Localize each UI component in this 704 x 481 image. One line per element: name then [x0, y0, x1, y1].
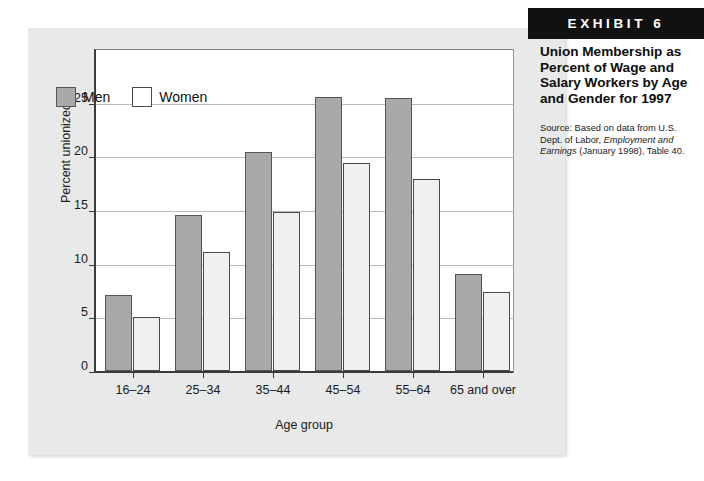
source-suffix: (January 1998), Table 40. — [577, 146, 685, 156]
y-axis-tick — [89, 265, 96, 266]
bar-women — [133, 317, 160, 371]
bar-women — [483, 292, 510, 371]
x-axis-tick-label: 25–34 — [186, 383, 221, 397]
bar-group: 45–54 — [313, 49, 383, 371]
bar-men — [455, 274, 482, 371]
x-axis-title: Age group — [94, 418, 514, 432]
bar-women — [203, 252, 230, 371]
chart-panel: 0510152025 Percent unionized 16–2425–343… — [28, 28, 565, 455]
x-axis-tick-label: 55–64 — [396, 383, 431, 397]
legend-swatch-women — [132, 87, 152, 107]
y-axis-tick — [89, 372, 96, 373]
exhibit-badge: EXHIBIT 6 — [528, 8, 704, 39]
y-axis-tick-label: 0 — [81, 359, 88, 373]
legend-entry-women: Women — [132, 87, 207, 107]
y-axis-tick-label: 20 — [74, 144, 88, 158]
y-axis-tick-label: 15 — [74, 198, 88, 212]
legend: MenWomen — [56, 87, 207, 107]
y-axis-tick — [89, 211, 96, 212]
y-axis-tick — [89, 157, 96, 158]
bar-group: 65 and over — [453, 49, 523, 371]
bar-women — [343, 163, 370, 371]
bar-women — [273, 212, 300, 371]
x-axis-tick-label: 45–54 — [326, 383, 361, 397]
bar-men — [105, 295, 132, 371]
bar-group: 55–64 — [383, 49, 453, 371]
x-axis-tick-label: 16–24 — [116, 383, 151, 397]
x-axis-tick-label: 65 and over — [450, 383, 516, 397]
x-axis-line — [96, 371, 513, 373]
bar-men — [385, 98, 412, 371]
bar-men — [245, 152, 272, 371]
bar-group: 35–44 — [243, 49, 313, 371]
legend-entry-men: Men — [56, 87, 110, 107]
y-axis-tick-label: 5 — [81, 305, 88, 319]
legend-label: Women — [159, 89, 207, 105]
exhibit-title: Union Membership as Percent of Wage and … — [540, 44, 692, 106]
bar-men — [175, 215, 202, 371]
bar-women — [413, 179, 440, 371]
exhibit-source: Source: Based on data from U.S. Dept. of… — [540, 123, 696, 158]
y-axis-tick — [89, 318, 96, 319]
legend-label: Men — [83, 89, 110, 105]
legend-swatch-men — [56, 87, 76, 107]
x-axis-tick-label: 35–44 — [256, 383, 291, 397]
y-axis-tick-label: 10 — [74, 252, 88, 266]
bar-men — [315, 97, 342, 371]
